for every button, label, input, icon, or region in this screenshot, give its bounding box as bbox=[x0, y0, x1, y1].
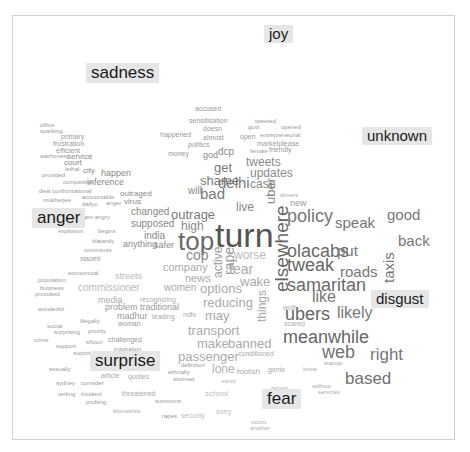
cloud-word: put bbox=[337, 243, 358, 258]
cloud-word: war bbox=[40, 153, 50, 159]
cloud-word: speak bbox=[335, 215, 375, 230]
cloud-word: definition bbox=[181, 362, 205, 368]
cloud-word: lone bbox=[212, 363, 235, 375]
cloud-word: commissioner bbox=[78, 283, 140, 293]
cloud-word: back bbox=[398, 233, 430, 248]
cloud-word: almost bbox=[203, 134, 224, 141]
cloud-word: sparking bbox=[40, 128, 63, 134]
cloud-word: happen bbox=[101, 169, 131, 178]
word-cloud: turntoppolicyelsewhereolacabstweaksamari… bbox=[0, 0, 470, 452]
cloud-word: web bbox=[322, 343, 355, 361]
cloud-word: stunned bbox=[173, 376, 194, 382]
cloud-word: crime bbox=[34, 337, 49, 343]
cloud-word: economical bbox=[68, 270, 98, 276]
cloud-word: consider bbox=[81, 380, 104, 386]
cloud-word: leading bbox=[152, 313, 175, 320]
cloud-word: service bbox=[67, 153, 92, 161]
cloud-word: dcp bbox=[218, 147, 234, 157]
cloud-word: minor bbox=[221, 378, 236, 384]
cloud-word: security bbox=[181, 412, 205, 419]
cloud-word: like bbox=[312, 289, 336, 305]
cloud-word: worse bbox=[234, 249, 266, 261]
cloud-word: politics bbox=[188, 141, 209, 148]
cloud-word: sydney bbox=[56, 380, 75, 386]
cloud-word: frustration bbox=[53, 140, 84, 147]
cloud-word: incident bbox=[81, 391, 102, 397]
cloud-word: live bbox=[236, 201, 254, 213]
cloud-word: money bbox=[168, 150, 189, 157]
cloud-word: sorry bbox=[216, 408, 232, 415]
cloud-word: another bbox=[250, 425, 270, 431]
cloud-word: roads bbox=[340, 264, 378, 279]
cloud-word: may bbox=[205, 309, 230, 322]
cloud-word: provided bbox=[42, 172, 65, 178]
cloud-word: threatened bbox=[122, 390, 155, 397]
cloud-word: policy bbox=[287, 207, 333, 225]
cloud-word: services bbox=[318, 389, 340, 395]
cloud-word: wolf bbox=[283, 304, 295, 311]
cloud-word: primary bbox=[61, 133, 84, 140]
cloud-word: woman bbox=[118, 320, 141, 327]
cloud-word: high bbox=[181, 220, 204, 232]
cloud-word: gen angry bbox=[83, 214, 110, 220]
cloud-word: case bbox=[250, 178, 275, 190]
cloud-word: doesn bbox=[203, 125, 222, 132]
cloud-word: good bbox=[387, 207, 420, 222]
cloud-word: school bbox=[205, 390, 228, 398]
category-label-fear: fear bbox=[262, 389, 301, 409]
cloud-word: foolish bbox=[237, 368, 260, 376]
cloud-word: illegally bbox=[80, 318, 100, 324]
cloud-word: drivers bbox=[280, 192, 298, 198]
cloud-word: anger bbox=[106, 200, 121, 206]
cloud-word: rapes bbox=[162, 413, 177, 419]
cloud-word: explosion bbox=[58, 228, 83, 234]
cloud-word: wake bbox=[240, 275, 270, 288]
cloud-word: priority bbox=[88, 328, 106, 334]
cloud-word: likely bbox=[337, 305, 373, 321]
cloud-word: article bbox=[101, 372, 120, 379]
cloud-word: dailyo bbox=[82, 201, 98, 207]
cloud-word: safer bbox=[154, 241, 174, 250]
cloud-word: taxis bbox=[381, 252, 396, 283]
cloud-word: ndtv bbox=[183, 311, 196, 318]
cloud-word: streets bbox=[115, 272, 142, 281]
cloud-word: supposed bbox=[131, 219, 174, 229]
cloud-word: summons bbox=[155, 398, 181, 404]
cloud-word: cop bbox=[186, 248, 209, 262]
cloud-word: probing bbox=[86, 399, 106, 405]
cloud-word: will bbox=[188, 186, 202, 196]
cloud-word: things bbox=[256, 290, 268, 322]
cloud-word: xiaomi bbox=[80, 255, 100, 262]
cloud-word: wonderful bbox=[38, 306, 64, 312]
cloud-word: govt bbox=[248, 124, 259, 130]
cloud-word: accused bbox=[195, 105, 221, 112]
cloud-word: comments bbox=[84, 247, 112, 253]
cloud-word: population bbox=[38, 277, 66, 283]
cloud-word: blatantly bbox=[92, 238, 114, 244]
cloud-word: know bbox=[303, 366, 317, 372]
cloud-word: tweak bbox=[287, 256, 334, 274]
cloud-word: deal bbox=[39, 188, 50, 194]
cloud-word: startup bbox=[324, 360, 342, 366]
cloud-word: sensitisation bbox=[189, 117, 228, 124]
cloud-word: quotes bbox=[128, 373, 149, 380]
cloud-word: changed bbox=[131, 207, 169, 217]
category-label-sadness: sadness bbox=[86, 63, 159, 83]
cloud-word: ethically bbox=[168, 369, 190, 375]
cloud-word: friendly bbox=[269, 146, 292, 153]
cloud-word: women bbox=[164, 283, 196, 293]
cloud-word: based bbox=[345, 370, 391, 387]
category-label-unknown: unknown bbox=[362, 127, 432, 145]
cloud-word: conditioned bbox=[238, 350, 274, 357]
cloud-word: female bbox=[250, 148, 268, 154]
cloud-word: opened bbox=[281, 124, 301, 130]
category-label-surprise: surprise bbox=[90, 351, 160, 371]
cloud-word: biometrics bbox=[113, 408, 140, 414]
cloud-word: virus bbox=[124, 198, 141, 206]
category-label-anger: anger bbox=[32, 208, 85, 228]
cloud-word: scared bbox=[284, 320, 305, 327]
cloud-word: writing bbox=[58, 391, 75, 397]
cloud-word: new bbox=[290, 199, 307, 208]
cloud-word: begins bbox=[98, 228, 116, 234]
cloud-word: surprising bbox=[54, 329, 80, 335]
